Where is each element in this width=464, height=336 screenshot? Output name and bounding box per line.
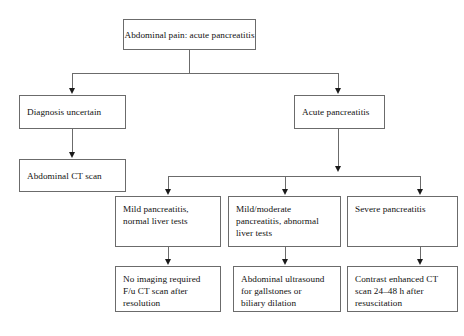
arrowhead-acute-pancreatitis xyxy=(335,88,341,94)
node-acute-pancreatitis: Acute pancreatitis xyxy=(294,95,385,129)
arrowhead-severe xyxy=(417,189,423,195)
arrowhead-mild-normal xyxy=(165,189,171,195)
arrowhead-mild-moderate xyxy=(282,189,288,195)
node-root: Abdominal pain: acute pancreatitis xyxy=(123,19,256,50)
connector-bus-level1 xyxy=(72,73,339,74)
node-mild-moderate-abnormal-liver-tests: Mild/moderate pancreatitis, abnormal liv… xyxy=(228,196,341,247)
arrowhead-diagnosis-uncertain xyxy=(69,88,75,94)
connector-bus-level2 xyxy=(168,176,421,177)
arrowhead-contrast-ct xyxy=(417,259,423,265)
connector-root-stem xyxy=(189,50,190,73)
flowchart-diagram: Abdominal pain: acute pancreatitis Diagn… xyxy=(0,0,464,336)
node-mild-normal-liver-tests: Mild pancreatitis, normal liver tests xyxy=(115,196,221,247)
connector-drop-diagnosis-uncertain xyxy=(72,73,73,89)
node-abdominal-ct-scan: Abdominal CT scan xyxy=(19,159,126,192)
connector-drop-mild-moderate xyxy=(285,176,286,190)
node-severe-pancreatitis: Severe pancreatitis xyxy=(347,196,458,247)
connector-drop-acute-pancreatitis xyxy=(338,73,339,89)
arrowhead-no-imaging xyxy=(165,259,171,265)
arrowhead-abdominal-ultrasound xyxy=(282,259,288,265)
connector-diagnosis-to-ct xyxy=(72,129,73,153)
arrowhead-acute-bus xyxy=(335,166,341,172)
node-diagnosis-uncertain: Diagnosis uncertain xyxy=(19,95,126,129)
node-contrast-enhanced-ct: Contrast enhanced CT scan 24–48 h after … xyxy=(347,266,458,312)
node-no-imaging-required: No imaging required F/u CT scan after re… xyxy=(115,266,221,312)
connector-acute-stem xyxy=(338,129,339,167)
node-abdominal-ultrasound: Abdominal ultrasound for gallstones or b… xyxy=(233,266,341,312)
arrowhead-abdominal-ct-scan xyxy=(69,152,75,158)
connector-drop-mild-normal xyxy=(168,176,169,190)
connector-drop-severe xyxy=(420,176,421,190)
